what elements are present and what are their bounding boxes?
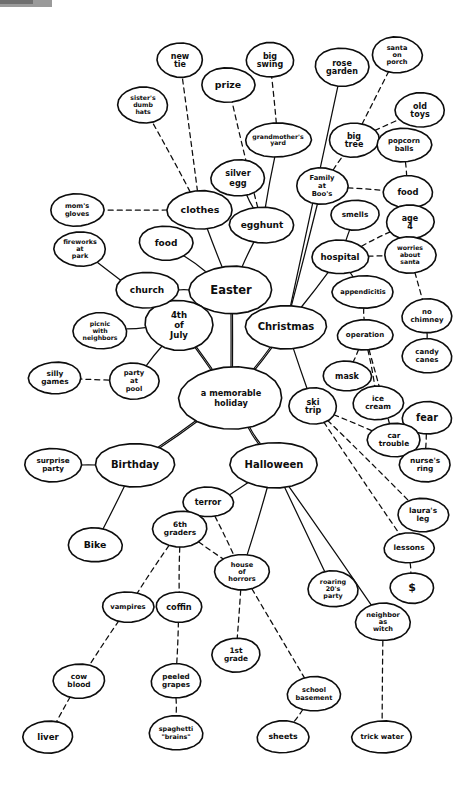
node-shape-fireworks_park: [54, 232, 105, 266]
edge-big_tree-to-santa_porch: [362, 72, 388, 124]
node-sisters_hats[interactable]: sister'sdumbhats: [118, 87, 168, 123]
node-lauras_leg[interactable]: laura'sleg: [398, 498, 449, 531]
node-age4[interactable]: age4: [387, 205, 435, 239]
node-sheets[interactable]: sheets: [257, 721, 309, 753]
node-house_horrors[interactable]: houseofhorrors: [215, 555, 270, 590]
node-shape-sheets: [257, 721, 309, 753]
node-food_easter[interactable]: food: [139, 226, 193, 260]
node-christmas[interactable]: Christmas: [245, 306, 326, 349]
edge-center-to-fourth: [195, 347, 211, 369]
node-shape-new_tie: [157, 43, 202, 77]
node-shape-lessons: [384, 533, 434, 563]
node-fireworks_park[interactable]: fireworksatpark: [54, 232, 105, 266]
edge-clothes-to-new_tie: [182, 77, 197, 191]
edge-christmas-to-ski_trip: [293, 349, 307, 389]
node-clothes[interactable]: clothes: [167, 191, 232, 229]
node-smells[interactable]: smells: [331, 200, 379, 230]
node-first_grade[interactable]: 1stgrade: [212, 638, 260, 672]
node-shape-roaring20: [308, 571, 358, 607]
node-big_swing[interactable]: bigswing: [246, 43, 293, 77]
node-worries_santa[interactable]: worriesaboutsanta: [385, 237, 436, 273]
node-surprise_party[interactable]: surpriseparty: [25, 449, 82, 482]
edge-appendicitis-to-operation: [364, 308, 365, 320]
node-shape-spaghetti_brains: [149, 716, 203, 750]
node-family_boos[interactable]: FamilyatBoo's: [297, 168, 348, 204]
node-shape-vampires: [103, 592, 154, 622]
edge-fourth-to-picnic: [127, 328, 145, 329]
node-shape-big_tree: [329, 123, 379, 157]
node-shape-school_basement: [287, 677, 340, 711]
node-food_xmas[interactable]: food: [383, 176, 432, 208]
node-peeled_grapes[interactable]: peeledgrapes: [151, 664, 200, 698]
node-fourth[interactable]: 4thofJuly: [145, 300, 213, 350]
node-silly_games[interactable]: sillygames: [28, 362, 80, 394]
node-sixth_graders[interactable]: 6thgraders: [152, 511, 206, 547]
node-big_tree[interactable]: bigtree: [329, 123, 379, 157]
edge-christmas-to-hospital: [302, 272, 329, 306]
edge-terror-to-house_horrors: [215, 516, 234, 554]
node-no_chimney[interactable]: nochimney: [402, 299, 452, 333]
node-shape-sisters_hats: [118, 87, 168, 123]
node-nurses_ring[interactable]: nurse'sring: [399, 448, 450, 481]
edge-house_horrors-to-first_grade: [237, 590, 240, 638]
node-school_basement[interactable]: schoolbasement: [287, 677, 340, 711]
edge-sixth_graders-to-house_horrors: [199, 542, 224, 559]
node-shape-operation: [337, 320, 393, 350]
edge-operation-to-mask: [353, 350, 358, 362]
node-shape-silly_games: [28, 362, 80, 394]
node-silver_egg[interactable]: silveregg: [211, 160, 265, 196]
edge-family_boos-to-food_xmas: [348, 188, 383, 190]
node-cow_blood[interactable]: cowblood: [53, 664, 104, 698]
edge-center-to-fourth: [196, 346, 212, 368]
node-center[interactable]: a memorableholiday: [179, 367, 282, 429]
node-bike[interactable]: Bike: [68, 528, 122, 562]
node-rose_garden[interactable]: rosegarden: [315, 48, 369, 86]
node-popcorn_balls[interactable]: popcornballs: [377, 128, 432, 161]
node-hospital[interactable]: hospital: [312, 240, 369, 273]
edge-easter-to-clothes: [207, 229, 222, 267]
node-birthday[interactable]: Birthday: [95, 444, 174, 487]
node-lessons[interactable]: lessons: [384, 533, 434, 563]
edge-halloween-to-house_horrors: [247, 488, 267, 555]
node-appendicitis[interactable]: appendicitis: [332, 276, 393, 308]
node-shape-halloween: [230, 443, 317, 488]
node-shape-bike: [68, 528, 122, 562]
node-mask[interactable]: mask: [323, 361, 371, 391]
node-shape-silver_egg: [211, 160, 265, 196]
node-shape-worries_santa: [385, 237, 436, 273]
node-shape-ski_trip: [289, 388, 336, 424]
node-old_toys[interactable]: oldtoys: [395, 93, 444, 127]
node-trick_water[interactable]: trick water: [352, 721, 412, 753]
node-egghunt[interactable]: egghunt: [229, 207, 293, 243]
node-shape-food_xmas: [383, 176, 432, 208]
node-shape-smells: [331, 200, 379, 230]
node-candy_canes[interactable]: candycanes: [402, 339, 452, 373]
node-neighbor_witch[interactable]: neighboraswitch: [355, 603, 410, 640]
node-operation[interactable]: operation: [337, 320, 393, 350]
node-shape-hospital: [312, 240, 369, 273]
node-prize[interactable]: prize: [202, 68, 255, 102]
node-grandmothers_yard[interactable]: grandmother'syard: [246, 123, 312, 157]
edge-center-to-christmas: [253, 347, 271, 370]
edge-center-to-birthday: [159, 420, 197, 446]
node-party_pool[interactable]: partyatpool: [110, 363, 160, 399]
node-ice_cream[interactable]: icecream: [353, 386, 403, 420]
node-shape-first_grade: [212, 638, 260, 672]
edge-school_basement-to-sheets: [294, 709, 303, 722]
node-ski_trip[interactable]: skitrip: [289, 388, 336, 424]
node-new_tie[interactable]: newtie: [157, 43, 202, 77]
node-dollar[interactable]: $: [390, 573, 433, 603]
node-coffin[interactable]: coffin: [156, 592, 201, 622]
node-liver[interactable]: liver: [23, 721, 73, 753]
edge-birthday-to-bike: [103, 486, 124, 529]
node-shape-christmas: [245, 306, 326, 349]
node-picnic[interactable]: picnicwithneighbors: [73, 313, 127, 349]
edge-hospital-to-smells: [346, 230, 350, 241]
node-santa_porch[interactable]: santaonporch: [372, 37, 422, 73]
node-roaring20[interactable]: roaring20'sparty: [308, 571, 358, 607]
node-moms_gloves[interactable]: mom'sgloves: [51, 194, 104, 226]
edge-center-to-halloween: [248, 428, 258, 444]
node-spaghetti_brains[interactable]: spaghetti"brains": [149, 716, 203, 750]
node-vampires[interactable]: vampires: [103, 592, 154, 622]
node-halloween[interactable]: Halloween: [230, 443, 317, 488]
